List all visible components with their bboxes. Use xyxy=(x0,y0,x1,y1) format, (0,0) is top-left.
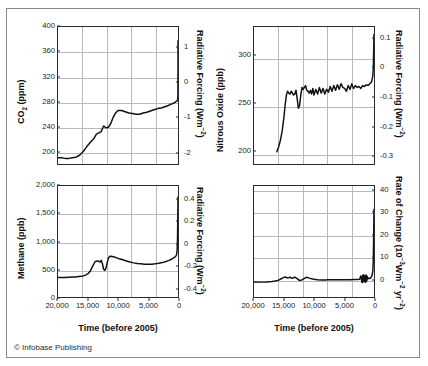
y2tick-n2o-mark xyxy=(372,126,375,127)
ytick-methane-mark xyxy=(57,185,60,186)
y2tick-methane: 0.2 xyxy=(184,217,195,225)
ytick-co2: 200 xyxy=(17,148,55,156)
y2tick-co2: 1 xyxy=(184,43,188,51)
ytick-co2-mark xyxy=(57,51,60,52)
y2tick-rate-of-change: 20 xyxy=(380,231,388,239)
y2tick-methane-mark xyxy=(176,243,179,244)
xtick-methane: 10,000 xyxy=(106,302,129,310)
y2tick-n2o: -0.1 xyxy=(380,93,393,101)
xtick-methane-mark xyxy=(118,298,119,301)
y2tick-n2o: -0.3 xyxy=(380,152,393,160)
xtick-methane: 5,000 xyxy=(139,302,158,310)
xtick-methane: 20,000 xyxy=(45,302,68,310)
y2tick-n2o: 0 xyxy=(380,63,384,71)
y2tick-co2-mark xyxy=(176,82,179,83)
xtick-methane-mark xyxy=(148,298,149,301)
y2tick-rate-of-change: 30 xyxy=(380,208,388,216)
ytick-co2-mark xyxy=(57,101,60,102)
y2tick-methane: 0 xyxy=(184,240,188,248)
ytick-co2-mark xyxy=(57,76,60,77)
axis-title-methane: Methane (ppb) xyxy=(16,218,26,280)
series-line-rate-of-change xyxy=(254,186,374,297)
y2tick-n2o-mark xyxy=(372,37,375,38)
y2tick-rate-of-change: 0 xyxy=(380,276,384,284)
xtick-rate-of-change: 10,000 xyxy=(302,302,325,310)
xtick-rate-of-change: 20,000 xyxy=(241,302,264,310)
xtick-methane-mark xyxy=(179,298,180,301)
ytick-n2o-mark xyxy=(253,54,256,55)
y2tick-methane-mark xyxy=(176,266,179,267)
publisher-credit: © Infobase Publishing xyxy=(14,343,92,352)
axis-title-rf-n2o: Radiative Forcing (Wm−2) xyxy=(394,30,406,138)
xtick-rate-of-change: 5,000 xyxy=(335,302,354,310)
ytick-co2-mark xyxy=(57,152,60,153)
ytick-co2: 360 xyxy=(17,47,55,55)
xtick-methane-mark xyxy=(57,298,58,301)
xtick-rate-of-change-mark xyxy=(375,298,376,301)
xtick-methane: 0 xyxy=(177,302,181,310)
ytick-co2-mark xyxy=(57,26,60,27)
ytick-methane-mark xyxy=(57,213,60,214)
y2tick-co2-mark xyxy=(176,47,179,48)
xtick-methane-mark xyxy=(87,298,88,301)
y2tick-n2o: 0.1 xyxy=(380,34,391,42)
xtick-rate-of-change-mark xyxy=(253,298,254,301)
figure-root: 200240280320360400 -2-101 CO2 (ppm) Radi… xyxy=(0,0,428,366)
ytick-methane: 1,500 xyxy=(17,209,55,217)
plot-area-n2o xyxy=(253,26,375,165)
ytick-methane: 2,000 xyxy=(17,181,55,189)
series-line-n2o xyxy=(254,27,374,164)
ytick-methane-mark xyxy=(57,241,60,242)
axis-title-n2o: Nitrous Oxide (ppb) xyxy=(215,68,225,152)
y2tick-co2: 0 xyxy=(184,78,188,86)
xtick-methane: 15,000 xyxy=(76,302,99,310)
y2tick-rate-of-change-mark xyxy=(372,234,375,235)
ytick-co2-mark xyxy=(57,127,60,128)
y2tick-co2-mark xyxy=(176,117,179,118)
xtick-rate-of-change-mark xyxy=(344,298,345,301)
y2tick-n2o: -0.2 xyxy=(380,123,393,131)
ytick-co2: 240 xyxy=(17,123,55,131)
y2tick-rate-of-change-mark xyxy=(372,257,375,258)
y2tick-co2-mark xyxy=(176,152,179,153)
xtick-rate-of-change-mark xyxy=(314,298,315,301)
y2tick-rate-of-change-mark xyxy=(372,279,375,280)
y2tick-rate-of-change-mark xyxy=(372,212,375,213)
ytick-n2o-mark xyxy=(253,102,256,103)
y2tick-n2o-mark xyxy=(372,67,375,68)
y2tick-n2o-mark xyxy=(372,156,375,157)
axis-title-rf-methane: Radiative Forcing (Wm−2) xyxy=(195,187,207,295)
axis-title-co2: CO2 (ppm) xyxy=(16,79,28,124)
axis-title-rate-of-change: Rate of Change (10−3Wm−2 yr−2) xyxy=(394,176,406,310)
series-line-co2 xyxy=(58,27,178,164)
series-line-methane xyxy=(58,186,178,297)
ytick-n2o-mark xyxy=(253,150,256,151)
y2tick-n2o-mark xyxy=(372,96,375,97)
y2tick-co2: -1 xyxy=(184,113,191,121)
y2tick-methane: 0.4 xyxy=(184,195,195,203)
ytick-co2: 400 xyxy=(17,22,55,30)
y2tick-rate-of-change: 40 xyxy=(380,186,388,194)
axis-title-time-right: Time (before 2005) xyxy=(274,323,353,333)
xtick-rate-of-change: 15,000 xyxy=(272,302,295,310)
axis-title-rf-co2: Radiative Forcing (Wm−2) xyxy=(195,30,207,138)
plot-area-co2 xyxy=(57,26,179,165)
ytick-n2o: 300 xyxy=(213,51,251,59)
ytick-methane-mark xyxy=(57,269,60,270)
y2tick-methane-mark xyxy=(176,288,179,289)
y2tick-co2: -2 xyxy=(184,149,191,157)
y2tick-rate-of-change: 10 xyxy=(380,253,388,261)
plot-area-rate-of-change xyxy=(253,185,375,298)
y2tick-methane-mark xyxy=(176,198,179,199)
axis-title-time-left: Time (before 2005) xyxy=(78,323,157,333)
plot-area-methane xyxy=(57,185,179,298)
y2tick-rate-of-change-mark xyxy=(372,189,375,190)
xtick-rate-of-change: 0 xyxy=(373,302,377,310)
y2tick-methane-mark xyxy=(176,221,179,222)
xtick-rate-of-change-mark xyxy=(283,298,284,301)
